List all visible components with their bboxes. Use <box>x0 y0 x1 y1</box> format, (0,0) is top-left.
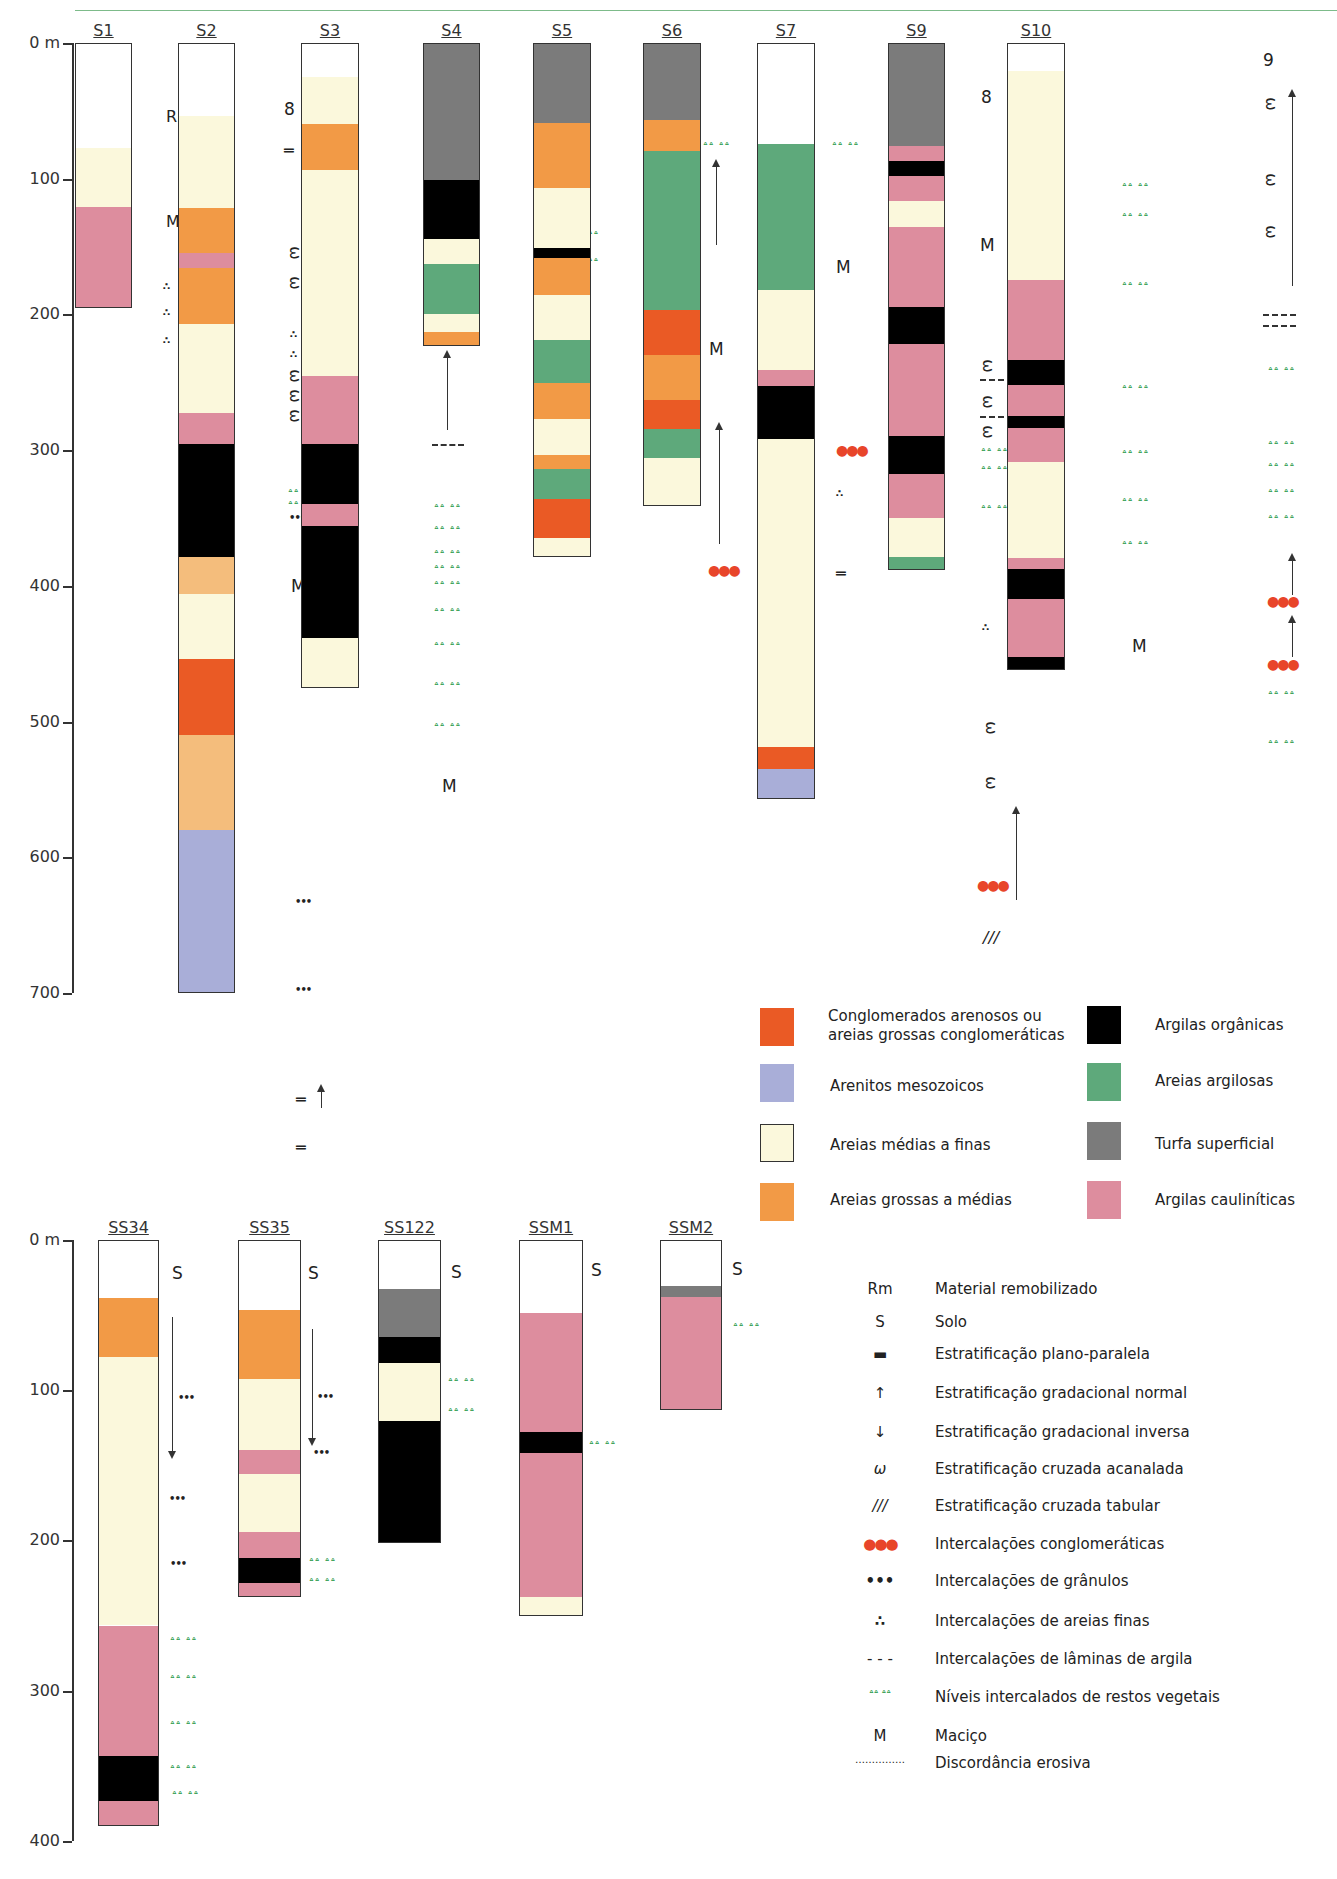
layer-argilosa <box>889 557 944 570</box>
layer-argilosa <box>644 429 700 457</box>
layer-caulinitica <box>889 227 944 307</box>
plant-remains-icon: ᐞᐞ ᐞᐞ <box>589 1440 616 1449</box>
annotation-8: 8 <box>284 101 295 118</box>
legend-label: Níveis intercalados de restos vegetais <box>935 1688 1220 1707</box>
axis-tick-label: 300 <box>0 440 60 459</box>
plant-remains-icon: ᐞᐞ ᐞᐞ <box>981 447 1008 456</box>
layer-grossa_media <box>534 455 590 469</box>
legend-swatch-organica <box>1087 1006 1121 1044</box>
plant-remains-icon: ᐞᐞ ᐞᐞ <box>1122 182 1149 191</box>
layer-organica <box>1008 416 1064 428</box>
layer-white <box>758 44 814 144</box>
layer-caulinitica <box>239 1532 300 1558</box>
column-s5 <box>533 43 591 557</box>
layer-organica <box>1008 657 1064 670</box>
layer-media_fina <box>1008 71 1064 280</box>
legend-label: Conglomerados arenosos ou areias grossas… <box>828 1007 1064 1045</box>
layer-media_fina <box>889 201 944 227</box>
plant-remains-icon: ᐞᐞ ᐞᐞ <box>170 1636 197 1645</box>
legend-label: Intercalações de grânulos <box>935 1572 1128 1591</box>
fine-sand-icon: ∴ <box>290 350 296 360</box>
clay-lamina-icon <box>1263 314 1296 316</box>
layer-grossa_media <box>644 355 700 400</box>
column-s2 <box>178 43 235 993</box>
layer-media_fina <box>379 1363 440 1422</box>
column-ssm1 <box>519 1240 583 1616</box>
conglomeratic-icon: ●●● <box>708 563 739 577</box>
axis-tick <box>63 993 72 995</box>
fine-sand-icon: ∴ <box>290 330 296 340</box>
plant-remains-icon: ᐞᐞ ᐞᐞ <box>981 465 1008 474</box>
parallel-bedding-icon: ═ <box>296 1092 306 1108</box>
legend-label: Areias argilosas <box>1155 1072 1273 1091</box>
layer-argilosa <box>758 144 814 289</box>
column-ss122 <box>378 1240 441 1543</box>
depth-axis-upper <box>72 43 74 993</box>
layer-white <box>1008 44 1064 71</box>
legend-label: Solo <box>935 1313 967 1332</box>
inverse-grading-arrow-icon <box>172 1317 173 1457</box>
plant-remains-icon: ᐞᐞ ᐞᐞ <box>1122 497 1149 506</box>
plant-remains-icon: ᐞᐞ ᐞᐞ <box>309 1557 336 1566</box>
layer-grossa_media <box>179 268 234 324</box>
axis-tick <box>63 857 72 859</box>
granule-icon: ••• <box>860 1572 900 1590</box>
annotation-8: 8 <box>981 89 992 106</box>
legend-swatch-conglomerado <box>760 1008 794 1046</box>
column-ss34 <box>98 1240 159 1826</box>
conglomeratic-icon: ●●● <box>1267 657 1298 671</box>
annotation-soil: S <box>451 1264 462 1281</box>
plant-remains-icon: ᐞᐞ ᐞᐞ <box>434 641 461 650</box>
layer-media_fina <box>758 290 814 370</box>
plant-remains-icon: ᐞᐞ ᐞᐞ <box>1268 739 1295 748</box>
axis-tick <box>63 1691 72 1693</box>
legend-label: Maciço <box>935 1727 987 1746</box>
plant-remains-icon: ᐞᐞ ᐞᐞ <box>1122 540 1149 549</box>
layer-organica <box>520 1432 582 1453</box>
layer-caulinitica <box>76 207 131 308</box>
fine-sand-icon: ∴ <box>982 623 988 633</box>
plant-remains-icon: ᐞᐞ ᐞᐞ <box>703 141 730 150</box>
column-title: S5 <box>522 21 602 40</box>
column-s4 <box>423 43 480 346</box>
conglomeratic-icon: ●●● <box>860 1535 900 1553</box>
annotation-massive: M <box>836 259 851 276</box>
plant-remains-icon: ᐞᐞ ᐞᐞ <box>309 1577 336 1586</box>
trough-cross-icon: ω <box>980 395 996 408</box>
normal-grading-icon: ↑ <box>860 1384 900 1402</box>
axis-tick <box>63 722 72 724</box>
column-s10 <box>1007 43 1065 670</box>
layer-caulinitica <box>889 146 944 161</box>
layer-media_fina <box>534 295 590 340</box>
column-title: S10 <box>996 21 1076 40</box>
annotation-massive: M <box>1132 638 1147 655</box>
axis-tick-label: 100 <box>0 169 60 188</box>
conglomeratic-icon: ●●● <box>836 443 867 457</box>
legend-label: Material remobilizado <box>935 1280 1097 1299</box>
layer-media_fina <box>179 116 234 208</box>
layer-organica <box>758 386 814 439</box>
axis-tick-label: 200 <box>0 1530 60 1549</box>
column-title: S6 <box>632 21 712 40</box>
layer-media_fina <box>889 518 944 557</box>
layer-grossa_media <box>239 1310 300 1379</box>
layer-caulinitica <box>239 1450 300 1474</box>
annotation-soil: S <box>172 1265 183 1282</box>
column-title: S7 <box>746 21 826 40</box>
plant-remains-icon: ᐞᐞ ᐞᐞ <box>1122 384 1149 393</box>
layer-argilosa <box>644 151 700 310</box>
normal-grading-arrow-icon <box>1292 617 1293 657</box>
layer-caulinitica <box>179 253 234 268</box>
legend-label: Estratificação plano-paralela <box>935 1345 1150 1364</box>
axis-tick-label: 600 <box>0 847 60 866</box>
layer-arenito <box>758 769 814 799</box>
layer-turfa <box>889 44 944 146</box>
normal-grading-arrow-icon <box>1016 808 1017 900</box>
soil-icon: S <box>860 1313 900 1331</box>
layer-white <box>379 1241 440 1289</box>
legend-label: Estratificação cruzada tabular <box>935 1497 1160 1516</box>
axis-tick-label: 700 <box>0 983 60 1002</box>
axis-tick-label: 0 m <box>0 33 60 52</box>
layer-caulinitica <box>1008 599 1064 657</box>
layer-conglomerado <box>179 659 234 735</box>
